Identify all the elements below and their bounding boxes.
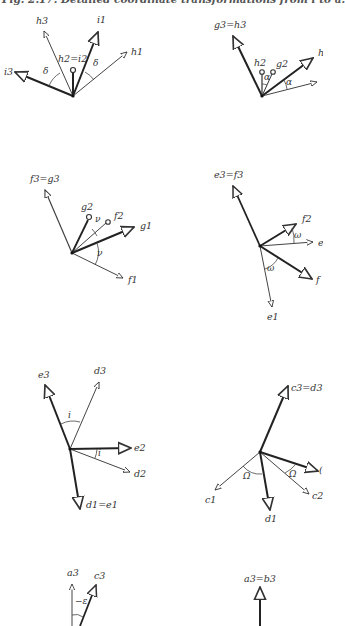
label-f2: f2 (301, 213, 312, 224)
origin (258, 244, 261, 247)
angle-label: −ε (75, 596, 88, 606)
origin (70, 251, 73, 254)
label-g3-h3: g3=h3 (214, 19, 246, 30)
angle-label-bottom: ν (97, 248, 103, 258)
label-e2: e (318, 237, 323, 248)
angle-label-right: i (98, 448, 101, 458)
label-h3: h3 (36, 15, 48, 26)
angle-arc-right (95, 449, 97, 458)
diagram-a-b: a3=b3 (244, 573, 276, 626)
angle-label-left: Ω (242, 471, 251, 481)
angle-label-top: ω (294, 230, 302, 240)
origin (258, 450, 261, 453)
axis-f2 (260, 224, 296, 246)
angle-label-right: Ω (288, 469, 297, 479)
label-h1: h (318, 47, 323, 58)
axis-d3 (70, 382, 99, 449)
angle-label-right: α (286, 77, 292, 87)
angle-arc (72, 614, 83, 617)
label-f3-g3: f3=g3 (29, 173, 60, 184)
axis-e3 (45, 385, 70, 449)
label-h1: h1 (131, 46, 143, 57)
label-f1: f (315, 274, 321, 285)
label-d2: d2 (134, 468, 146, 479)
label-d1-e1: d1=e1 (86, 499, 118, 510)
label-e3: e3 (38, 369, 50, 380)
axis-c2 (260, 452, 309, 494)
label-g1: g1 (140, 220, 152, 231)
label-e3-f3: e3=f3 (214, 169, 243, 180)
angle-arc-top (262, 84, 267, 85)
origin (68, 447, 71, 450)
axis-c3-d3 (260, 386, 288, 452)
label-a3: a3 (67, 567, 79, 578)
label-g2: g2 (81, 201, 93, 212)
axis-d1 (260, 452, 270, 510)
diagram-c-d: c3=d3 ( c2 c1 d1 Ω Ω (205, 382, 323, 524)
axis-f3-g3 (45, 190, 72, 253)
label-c1: c1 (205, 494, 216, 505)
label-h2-i2: h2=i2 (58, 53, 87, 64)
angle-arc-right (85, 72, 94, 80)
label-h2: h2 (254, 57, 266, 68)
label-c3-d3: c3=d3 (291, 382, 322, 393)
angle-arc-left (49, 73, 60, 86)
label-i1: i1 (97, 14, 106, 25)
angle-label-top: α (264, 72, 270, 82)
label-f1: f1 (127, 274, 138, 285)
label-a3-b3: a3=b3 (244, 573, 276, 584)
diagram-h-i: h3 i1 h2=i2 h1 i3 δ δ (4, 14, 143, 98)
axis-e1 (260, 246, 272, 307)
origin (71, 94, 74, 97)
diagram-d-e: e3 d3 e2 d2 d1=e1 i i (38, 365, 146, 510)
label-d1: d1 (265, 513, 277, 524)
angle-arc-top (61, 421, 80, 424)
axis-f2-head (106, 220, 111, 225)
label-f2: f2 (113, 210, 124, 221)
angle-label-bottom: ω (267, 263, 275, 273)
diagram-a-c: a3 c3 −ε (67, 567, 105, 626)
angle-label-top: i (68, 410, 71, 420)
label-d3: d3 (94, 365, 106, 376)
axis-e2 (260, 242, 313, 246)
angle-label-right: δ (93, 58, 98, 68)
axis-e3-f3 (233, 186, 260, 246)
angle-label-left: δ (43, 66, 48, 76)
axis-g2-head (271, 70, 276, 75)
axis-h2-i2-head (71, 68, 76, 73)
label-g2: g2 (276, 58, 288, 69)
axis-g1 (72, 227, 134, 253)
axis-d1-e1 (70, 449, 80, 509)
diagram-g-h: g3=h3 h2 g2 h α α (214, 19, 323, 98)
angle-label-top: ν (95, 214, 101, 224)
label-e1: e1 (267, 311, 279, 322)
axis-g2-head (87, 215, 92, 220)
diagram-e-f: e3=f3 f2 e f e1 ω ω (214, 169, 323, 322)
label-c3: c3 (94, 570, 105, 581)
label-d2: ( (319, 464, 323, 475)
diagram-f-g: f3=g3 g2 f2 g1 f1 ν ν (29, 173, 152, 285)
axis-c1 (215, 452, 260, 490)
label-i3: i3 (4, 66, 13, 77)
label-c2: c2 (312, 490, 323, 501)
label-e2: e2 (134, 442, 146, 453)
origin (260, 94, 263, 97)
